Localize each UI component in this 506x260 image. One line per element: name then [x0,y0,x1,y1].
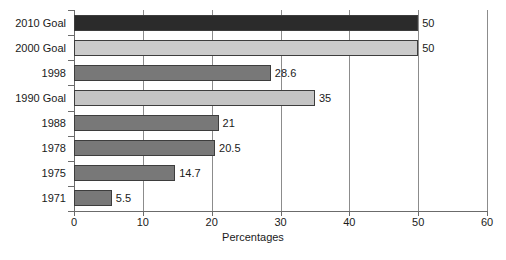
bar-1978 [74,140,215,156]
y-tick [68,136,74,137]
bar-value-label: 50 [422,40,434,56]
bar-2000-goal [74,40,418,56]
bar-value-label: 50 [422,15,434,31]
y-tick [68,111,74,112]
bar-value-label: 21 [223,115,235,131]
category-label-1978: 1978 [0,140,66,156]
category-label-1988: 1988 [0,115,66,131]
category-label-1998: 1998 [0,65,66,81]
category-label-1990-goal: 1990 Goal [0,90,66,106]
category-label-1975: 1975 [0,165,66,181]
x-tick-label-0: 0 [54,216,94,229]
y-tick [68,60,74,61]
y-tick [68,85,74,86]
x-tick-label-40: 40 [329,216,369,229]
bar-value-label: 28.6 [275,65,296,81]
bar-value-label: 14.7 [179,165,200,181]
gridline-50 [418,10,419,211]
bar-1971 [74,190,112,206]
bar-1990-goal [74,90,315,106]
x-tick-label-60: 60 [467,216,506,229]
bar-value-label: 5.5 [116,190,131,206]
x-tick-label-30: 30 [261,216,301,229]
bar-1988 [74,115,219,131]
bar-1975 [74,165,175,181]
x-axis-title: Percentages [0,231,506,244]
y-tick [68,211,74,212]
y-tick [68,186,74,187]
bar-1998 [74,65,271,81]
gridline-60 [487,10,488,211]
x-tick-label-50: 50 [398,216,438,229]
category-label-1971: 1971 [0,190,66,206]
bar-2010-goal [74,15,418,31]
bar-value-label: 20.5 [219,140,240,156]
y-tick [68,35,74,36]
y-tick [68,10,74,11]
category-label-2010-goal: 2010 Goal [0,15,66,31]
bar-value-label: 35 [319,90,331,106]
category-label-2000-goal: 2000 Goal [0,40,66,56]
x-tick-label-10: 10 [123,216,163,229]
y-tick [68,161,74,162]
figure-bar-chart: 0102030405060 502010 Goal502000 Goal28.6… [0,0,506,260]
x-tick-label-20: 20 [192,216,232,229]
